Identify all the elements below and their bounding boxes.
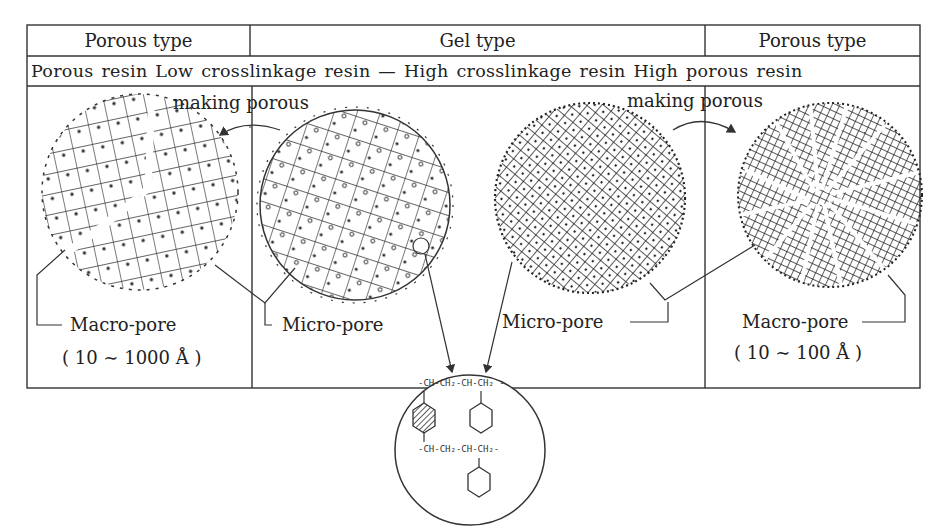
- header-gel-type: Gel type: [250, 30, 705, 52]
- polymer-chain-bottom: -CH-CH₂-CH-CH₂-: [418, 444, 499, 454]
- micro-pore-label-right: Micro-pore: [502, 311, 603, 333]
- header-porous-type-left: Porous type: [27, 30, 250, 52]
- polymer-chain-top: -CH-CH₂-CH-CH₂ -: [418, 378, 505, 388]
- making-porous-label-right: making porous: [627, 90, 763, 112]
- leader-macro-pore-left: [37, 250, 65, 325]
- macro-pore-range-right: ( 10 ∼ 100 Å ): [734, 342, 862, 364]
- macro-pore-range-left: ( 10 ∼ 1000 Å ): [62, 347, 201, 369]
- macro-pore-label-left: Macro-pore: [70, 314, 176, 336]
- leader-macro-pore-right: [862, 275, 905, 322]
- resin-series-row: Porous resin Low crosslinkage resin — Hi…: [31, 60, 803, 82]
- crosslink-ring: [413, 403, 435, 433]
- making-porous-arrow-right: [673, 121, 735, 132]
- header-porous-type-right: Porous type: [705, 30, 920, 52]
- sphere-porous-resin: [42, 90, 238, 290]
- making-porous-label-left: making porous: [173, 92, 309, 114]
- micro-pore-label-left: Micro-pore: [282, 314, 383, 336]
- sphere-low-crosslinkage: [260, 110, 450, 300]
- arrow-to-structure-left: [425, 254, 452, 372]
- sphere-high-porous: [738, 100, 922, 290]
- macro-pore-label-right: Macro-pore: [742, 311, 848, 333]
- leader-micro-pore-left: [215, 265, 295, 303]
